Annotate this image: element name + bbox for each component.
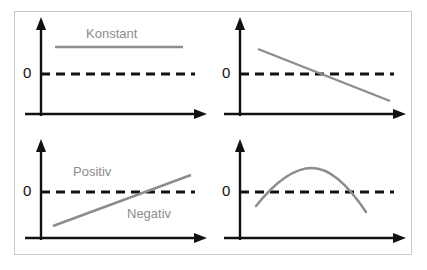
zero-label: 0 xyxy=(222,182,230,200)
y-axis xyxy=(36,17,46,116)
y-axis xyxy=(235,17,245,116)
parabola-data-curve xyxy=(256,168,366,212)
zero-label: 0 xyxy=(23,182,31,200)
decreasing-line-chart xyxy=(214,12,413,134)
figure-root: 0 Konstant 0 xyxy=(0,0,427,270)
zero-label: 0 xyxy=(23,64,31,82)
konstant-label: Konstant xyxy=(86,26,137,42)
decreasing-line-panel: 0 xyxy=(214,12,413,134)
positiv-label: Positiv xyxy=(73,164,111,180)
y-axis xyxy=(235,139,245,240)
parabola-panel: 0 xyxy=(214,134,413,256)
negativ-label: Negativ xyxy=(127,206,171,222)
zero-label: 0 xyxy=(222,64,230,82)
y-axis xyxy=(36,139,46,240)
x-axis xyxy=(224,233,406,243)
parabola-chart xyxy=(214,134,413,256)
caption-strip xyxy=(0,258,427,270)
constant-line-panel: 0 Konstant xyxy=(15,12,214,134)
figure-frame: 0 Konstant 0 xyxy=(14,11,412,255)
x-axis xyxy=(25,109,207,119)
increasing-line-panel: 0 Positiv Negativ xyxy=(15,134,214,256)
x-axis xyxy=(25,233,207,243)
x-axis xyxy=(224,109,406,119)
panel-grid: 0 Konstant 0 xyxy=(15,12,413,256)
increasing-line-chart xyxy=(15,134,214,256)
